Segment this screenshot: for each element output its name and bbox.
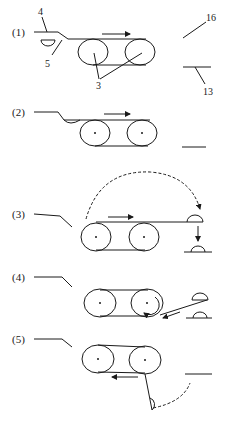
step-3: (3) <box>12 172 212 252</box>
part-semicircle <box>187 215 203 222</box>
callout-13: 13 <box>203 86 213 97</box>
callout-3: 3 <box>96 80 101 91</box>
placed-part <box>191 246 205 252</box>
callout-3-line-a <box>94 53 99 79</box>
roller-left <box>78 39 108 65</box>
part-semicircle <box>192 293 208 300</box>
roller-axle <box>141 132 143 134</box>
transfer-path-dashed <box>86 172 200 219</box>
placed-part <box>193 312 207 318</box>
step-4: (4) <box>12 271 212 318</box>
roller-axle <box>143 236 145 238</box>
pickup-arm <box>34 32 68 39</box>
callout-5: 5 <box>45 58 50 69</box>
callout-4: 4 <box>38 6 43 17</box>
callout-3-line-b <box>100 53 142 79</box>
step-1-label: (1) <box>12 26 25 39</box>
process-diagram: (1) 4 5 3 16 13 (2) <box>0 0 226 424</box>
roller-axle <box>95 236 97 238</box>
diagram-stage: (1) 4 5 3 16 13 (2) <box>0 0 226 424</box>
callout-4-line <box>42 17 47 32</box>
step-2: (2) <box>12 106 206 147</box>
roller-axle <box>97 358 99 360</box>
callout-16-line <box>183 22 206 38</box>
callout-16: 16 <box>206 12 216 23</box>
belt-top <box>34 112 150 120</box>
callout-13-line <box>195 67 205 84</box>
roller-axle <box>144 359 146 361</box>
pickup-arm <box>34 339 72 347</box>
step-2-label: (2) <box>12 106 25 119</box>
belt-hanging <box>145 374 152 410</box>
step-5-label: (5) <box>12 333 25 346</box>
step-1: (1) 4 5 3 16 13 <box>12 6 216 97</box>
callout-5-line <box>52 40 62 55</box>
roller-axle <box>146 302 148 304</box>
pickup-arm <box>34 214 72 227</box>
step-5: (5) <box>12 333 212 410</box>
swing-path-dashed <box>153 383 190 408</box>
rotation-arrow <box>144 297 159 315</box>
pickup-arm <box>34 277 72 287</box>
part-semicircle <box>41 40 55 46</box>
roller-axle <box>99 302 101 304</box>
belt-extension <box>160 300 207 315</box>
step-3-label: (3) <box>12 208 25 221</box>
roller-axle <box>94 132 96 134</box>
step-4-label: (4) <box>12 271 25 284</box>
